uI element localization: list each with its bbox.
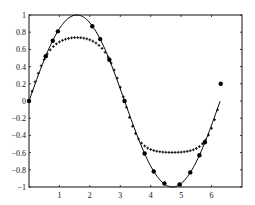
sample-dot xyxy=(51,39,55,43)
sample-dot xyxy=(203,140,207,144)
y-tick-label: 0.4 xyxy=(16,63,26,72)
x-tick-label: 6 xyxy=(210,191,214,200)
plus-marker xyxy=(180,151,183,154)
plus-marker xyxy=(88,38,91,41)
plus-marker xyxy=(174,151,177,154)
sample-dot xyxy=(162,181,166,185)
plus-marker xyxy=(149,148,152,151)
plus-marker xyxy=(95,42,98,45)
plus-marker xyxy=(183,150,186,153)
plus-marker xyxy=(79,36,82,39)
plus-marker xyxy=(64,38,67,41)
y-tick-label: 1 xyxy=(22,11,26,20)
x-tick-label: 2 xyxy=(88,191,92,200)
x-tick-label: 3 xyxy=(118,191,122,200)
plus-marker xyxy=(143,145,146,148)
plus-marker xyxy=(58,40,61,43)
plus-marker xyxy=(85,37,88,40)
plus-marker xyxy=(67,37,70,40)
y-tick-label: −0.4 xyxy=(11,131,26,140)
plus-marker xyxy=(82,37,85,40)
y-tick-label: −0.6 xyxy=(11,149,26,158)
sample-dot xyxy=(188,170,192,174)
plus-marker xyxy=(61,39,64,42)
sample-dot xyxy=(177,182,181,186)
y-tick-label: 0.2 xyxy=(16,80,26,89)
x-tick-label: 1 xyxy=(57,191,61,200)
plus-marker xyxy=(76,36,79,39)
plus-marker xyxy=(198,145,201,148)
chart: 123456−1−0.8−0.6−0.4−0.200.20.40.60.81 xyxy=(0,0,255,205)
sample-dot xyxy=(197,153,201,157)
sample-dot xyxy=(219,82,223,86)
plus-marker xyxy=(137,138,140,141)
x-tick-label: 4 xyxy=(149,191,153,200)
plus-marker xyxy=(52,45,55,48)
y-tick-label: −0.2 xyxy=(11,114,26,123)
sample-dot xyxy=(107,58,111,62)
plus-marker xyxy=(146,147,149,150)
plus-marker xyxy=(177,151,180,154)
plus-marker xyxy=(152,149,155,152)
sample-dot xyxy=(142,151,146,155)
plot-area: 123456−1−0.8−0.6−0.4−0.200.20.40.60.81 xyxy=(0,0,255,205)
plus-marker xyxy=(155,150,158,153)
sample-point-markers xyxy=(27,24,223,187)
plus-marker xyxy=(73,36,76,39)
x-tick-label: 5 xyxy=(179,191,183,200)
sample-dot xyxy=(56,29,60,33)
y-tick-label: −1 xyxy=(17,183,26,192)
plus-marker xyxy=(192,148,195,151)
plus-marker xyxy=(161,151,164,154)
sample-dot xyxy=(27,99,31,103)
plus-marker xyxy=(168,151,171,154)
sample-dot xyxy=(44,54,48,58)
sample-dot xyxy=(122,99,126,103)
tick-labels: 123456−1−0.8−0.6−0.4−0.200.20.40.60.81 xyxy=(11,11,213,200)
plus-marker xyxy=(98,44,101,47)
plus-marker xyxy=(195,147,198,150)
plus-marker xyxy=(165,151,168,154)
y-tick-label: 0.6 xyxy=(16,45,26,54)
y-tick-label: 0.8 xyxy=(16,28,26,37)
plus-marker xyxy=(171,151,174,154)
network-output-markers xyxy=(28,36,219,154)
axes xyxy=(29,15,242,187)
plus-marker xyxy=(92,40,95,43)
y-tick-label: 0 xyxy=(22,97,26,106)
sample-dot xyxy=(152,169,156,173)
y-tick-label: −0.8 xyxy=(11,166,26,175)
plus-marker xyxy=(158,150,161,153)
sample-dot xyxy=(90,24,94,28)
plus-marker xyxy=(55,43,58,46)
plus-marker xyxy=(186,150,189,153)
plus-marker xyxy=(189,149,192,152)
sample-dot xyxy=(98,37,102,41)
plus-marker xyxy=(70,36,73,39)
axes-box xyxy=(29,15,242,187)
plus-marker xyxy=(101,47,104,50)
